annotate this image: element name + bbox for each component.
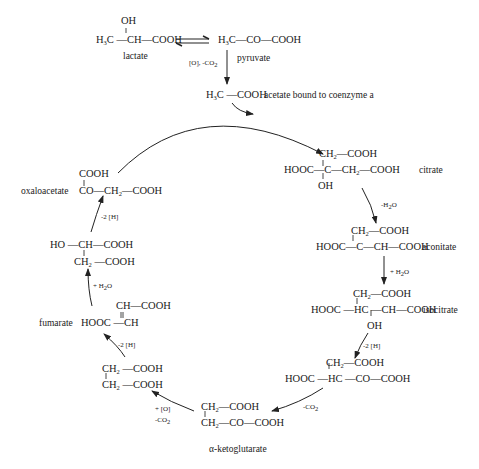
fumarate-label: fumarate xyxy=(39,318,73,329)
citrate-line3: OH xyxy=(318,180,333,192)
akg-label: α-ketoglutarate xyxy=(209,444,267,455)
oxaloacetate-label: oxaloacetate xyxy=(21,186,68,197)
acetate-label: acetate bound to coenzyme a xyxy=(264,90,374,101)
arrow-acetate-into-cycle xyxy=(232,103,253,114)
arrow-fumarate-malate xyxy=(88,269,92,306)
akg-line2: CH2—CO—COOH xyxy=(201,417,284,429)
condition-oxalosuccinate-akg: -CO2 xyxy=(303,403,318,411)
oxalosuccinate-line1: CH2—COOH xyxy=(326,357,384,369)
akg-line1: CH2—COOH xyxy=(201,401,259,413)
succinate-line2: CH2 —COOH xyxy=(102,379,163,391)
lactate-label: lactate xyxy=(123,51,148,62)
condition-fumarate-malate: + H2O xyxy=(93,282,112,290)
condition-citrate-aconitate: -H2O xyxy=(381,201,397,209)
pyruvate-formula: H3C—CO—COOH xyxy=(218,34,301,46)
condition-aconitate-isocitrate: + H2O xyxy=(390,268,409,276)
condition-succinate-fumarate: -2 [H] xyxy=(118,341,135,349)
succinate-line1: CH2 —COOH xyxy=(102,363,163,375)
arrow-citrate-aconitate xyxy=(362,188,376,223)
fumarate-line2: HOOC —CH xyxy=(81,317,138,329)
oxalosuccinate-line2: HOOC —HC —CO—COOH xyxy=(285,373,410,385)
citrate-label: citrate xyxy=(419,165,443,176)
aconitate-line1: CH2—COOH xyxy=(351,225,409,237)
fumarate-line1: CH—COOH xyxy=(116,300,171,312)
aconitate-label: aconitate xyxy=(422,242,456,253)
citrate-line1: CH2—COOH xyxy=(319,148,377,160)
isocitrate-label: isocitrate xyxy=(423,305,458,316)
acetate-formula: H3C —COOH xyxy=(206,89,267,101)
condition-malate-oxaloacetate: -2 [H] xyxy=(101,213,118,221)
lactate-formula: H3C —CH—COOH xyxy=(96,34,182,46)
citrate-line2: HOOC—C—CH2—COOH xyxy=(284,164,400,176)
oxaloacetate-line2: CO—CH2—COOH xyxy=(79,185,162,197)
condition-pyruvate-acetate: [O], -CO2 xyxy=(189,59,218,67)
malate-line2: CH2 —COOH xyxy=(74,256,135,268)
isocitrate-line1: CH2—COOH xyxy=(353,288,411,300)
isocitrate-line3: OH xyxy=(367,320,382,332)
aconitate-line2: HOOC—C—CH—COOH xyxy=(316,241,429,253)
oxaloacetate-line1: COOH xyxy=(79,168,109,180)
condition-akg-succinate-1: + [O] xyxy=(155,405,170,413)
condition-isocitrate-oxalosuccinate: -2 [H] xyxy=(363,342,380,350)
malate-line1: HO —CH—COOH xyxy=(50,239,133,251)
isocitrate-line2: HOOC —HC —CH—COOH xyxy=(311,304,436,316)
pyruvate-label: pyruvate xyxy=(237,53,270,64)
condition-akg-succinate-2: -CO2 xyxy=(155,416,170,424)
lactate-oh: OH xyxy=(121,15,136,27)
